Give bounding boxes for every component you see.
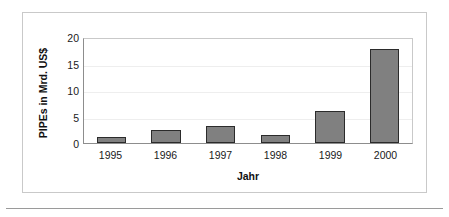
bottom-divider bbox=[6, 208, 443, 209]
bar-2000[interactable] bbox=[370, 49, 400, 143]
x-axis-tick-label: 1996 bbox=[138, 149, 193, 161]
bar-chart: PIPEs in Mrd. US$ 05101520 1995199619971… bbox=[23, 13, 428, 194]
y-axis-title: PIPEs in Mrd. US$ bbox=[37, 33, 49, 153]
bar-slot bbox=[193, 39, 248, 143]
bar-series bbox=[84, 39, 412, 143]
bar-slot bbox=[357, 39, 412, 143]
y-axis-tick-labels: 05101520 bbox=[57, 38, 79, 144]
x-axis-tick-label: 1999 bbox=[303, 149, 358, 161]
bar-1999[interactable] bbox=[315, 111, 345, 143]
y-axis-tick-label: 10 bbox=[57, 86, 79, 96]
y-axis-tick-label: 0 bbox=[57, 139, 79, 149]
y-axis-tick-label: 5 bbox=[57, 113, 79, 123]
bar-slot bbox=[139, 39, 194, 143]
x-axis-tick-label: 1995 bbox=[83, 149, 138, 161]
bar-1998[interactable] bbox=[261, 135, 291, 143]
plot-area bbox=[83, 38, 413, 144]
y-axis-tick-label: 15 bbox=[57, 60, 79, 70]
y-axis-tick-label: 20 bbox=[57, 33, 79, 43]
bar-slot bbox=[303, 39, 358, 143]
bar-slot bbox=[84, 39, 139, 143]
x-axis-tick-label: 2000 bbox=[358, 149, 413, 161]
bar-1997[interactable] bbox=[206, 126, 236, 143]
x-axis-tick-label: 1998 bbox=[248, 149, 303, 161]
x-axis-title: Jahr bbox=[83, 170, 413, 182]
x-axis-tick-labels: 199519961997199819992000 bbox=[83, 149, 413, 161]
bar-slot bbox=[248, 39, 303, 143]
bar-1995[interactable] bbox=[97, 137, 127, 143]
figure-frame: PIPEs in Mrd. US$ 05101520 1995199619971… bbox=[22, 12, 427, 193]
x-axis-tick-label: 1997 bbox=[193, 149, 248, 161]
bar-1996[interactable] bbox=[151, 130, 181, 143]
